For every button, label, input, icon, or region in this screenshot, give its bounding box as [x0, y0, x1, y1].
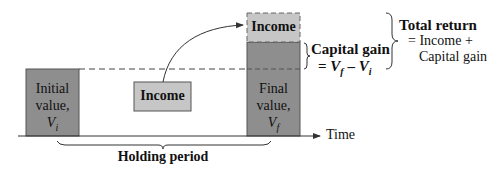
initial-value-line1: Initial: [26, 80, 79, 97]
income-arrow: [163, 25, 243, 82]
final-value-line2: value,: [247, 97, 300, 114]
initial-value-symbol: Vi: [26, 114, 79, 136]
total-return-line2: = Income +: [408, 34, 473, 48]
initial-value-label: Initial value, Vi: [26, 80, 79, 136]
final-value-label: Final value, Vf: [247, 80, 300, 136]
initial-value-line2: value,: [26, 97, 79, 114]
income-top-label: Income: [247, 20, 300, 34]
final-value-line1: Final: [247, 80, 300, 97]
total-return-line3: Capital gain: [419, 50, 487, 64]
capital-gain-brace: [304, 43, 310, 69]
holding-period-label: Holding period: [103, 150, 223, 164]
total-return-title: Total return: [399, 18, 477, 33]
capital-gain-label: Capital gain: [311, 42, 390, 57]
time-axis-label: Time: [326, 128, 355, 142]
income-middle-label: Income: [134, 89, 191, 103]
final-value-symbol: Vf: [247, 114, 300, 136]
holding-period-brace: [57, 141, 271, 149]
capital-gain-formula: = Vf – Vi: [318, 59, 371, 77]
